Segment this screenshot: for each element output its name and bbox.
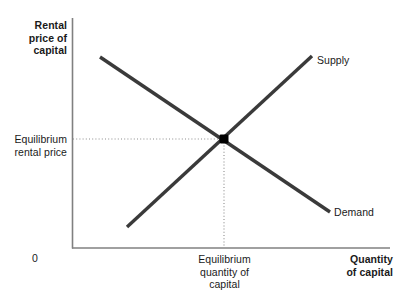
equilibrium-rental-price-label: Equilibrium rental price (0, 133, 67, 158)
supply-curve-label: Supply (317, 54, 377, 67)
origin-label: 0 (22, 252, 48, 265)
equilibrium-quantity-label: Equilibrium quantity of capital (176, 253, 273, 291)
supply-demand-figure: Rental price of capital Equilibrium rent… (0, 0, 401, 299)
x-axis-title: Quantity of capital (305, 253, 393, 278)
demand-curve-label: Demand (334, 206, 396, 219)
equilibrium-point-marker (220, 135, 229, 144)
y-axis-title: Rental price of capital (0, 19, 67, 57)
demand-curve (100, 57, 330, 212)
